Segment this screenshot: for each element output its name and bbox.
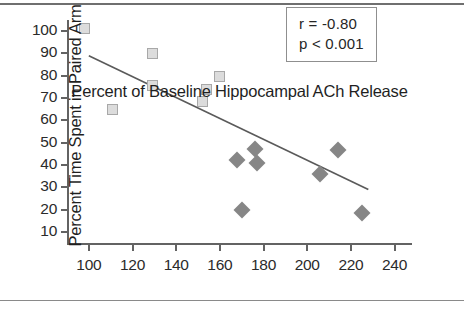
x-tick-180 <box>263 245 265 251</box>
x-tick-label-200: 200 <box>284 256 330 274</box>
x-tick-label-160: 160 <box>197 256 243 274</box>
figure-container: 102030405060708090100 100120140160180200… <box>0 0 464 310</box>
y-axis-title: Percent Time Spent in Paired Arm <box>66 0 85 310</box>
x-tick-100 <box>88 245 90 251</box>
x-tick-200 <box>306 245 308 251</box>
statistics-annotation-box: r = -0.80 p < 0.001 <box>286 7 377 62</box>
x-tick-120 <box>132 245 134 251</box>
y-tick-label-50: 50 <box>0 133 57 151</box>
x-tick-label-140: 140 <box>153 256 199 274</box>
y-tick-label-20: 20 <box>0 200 57 218</box>
y-tick-label-100: 100 <box>0 21 57 39</box>
y-tick-label-10: 10 <box>0 222 57 240</box>
y-tick-label-60: 60 <box>0 110 57 128</box>
x-tick-label-120: 120 <box>110 256 156 274</box>
x-tick-140 <box>175 245 177 251</box>
y-tick-label-30: 30 <box>0 177 57 195</box>
y-tick-label-90: 90 <box>0 43 57 61</box>
bottom-divider-rule <box>0 300 464 301</box>
data-point-square <box>107 104 118 115</box>
x-tick-240 <box>394 245 396 251</box>
x-tick-160 <box>219 245 221 251</box>
y-tick-label-40: 40 <box>0 155 57 173</box>
x-tick-220 <box>350 245 352 251</box>
x-tick-label-220: 220 <box>328 256 374 274</box>
x-axis-title: Percent of Baseline Hippocampal ACh Rele… <box>17 82 462 101</box>
data-point-square <box>214 71 225 82</box>
data-point-square <box>147 48 158 59</box>
correlation-value: r = -0.80 <box>299 14 364 34</box>
x-tick-label-240: 240 <box>372 256 418 274</box>
x-tick-label-180: 180 <box>241 256 287 274</box>
pvalue-value: p < 0.001 <box>299 34 364 54</box>
